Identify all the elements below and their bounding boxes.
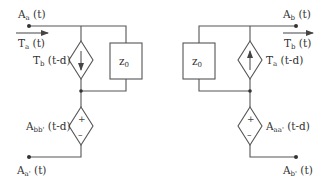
- right-minus-sign: –: [247, 130, 252, 140]
- right-current-label: Tb (t): [284, 37, 311, 51]
- right-current-source-label: Ta (t-d): [266, 54, 303, 68]
- left-plus-sign: +: [78, 114, 86, 124]
- left-port: Aa (t) Ta (t) Tb (t-d) z0 + – Abb' (t-d)…: [16, 8, 142, 178]
- left-bottom-wire: [29, 145, 81, 157]
- left-current-label: Ta (t): [18, 37, 45, 51]
- circuit-diagram: Aa (t) Ta (t) Tb (t-d) z0 + – Abb' (t-d)…: [0, 0, 331, 183]
- right-bottom-terminal: [294, 155, 298, 159]
- right-top-terminal: [294, 24, 298, 28]
- right-plus-sign: +: [247, 114, 255, 124]
- left-junction-wire: [81, 79, 126, 91]
- right-port: Ab (t) Tb (t) z0 Ta (t-d) + – Aaa' (t-d)…: [183, 8, 313, 178]
- left-top-terminal: [27, 24, 31, 28]
- right-voltage-source-label: Aaa' (t-d): [265, 120, 310, 134]
- right-junction-dot: [248, 89, 252, 93]
- left-bottom-node-label: Aa' (t): [16, 164, 46, 178]
- left-junction-dot: [79, 89, 83, 93]
- left-minus-sign: –: [78, 130, 83, 140]
- left-bottom-terminal: [27, 155, 31, 159]
- left-voltage-source-label: Abb' (t-d): [25, 120, 71, 134]
- right-top-wire: [199, 26, 296, 43]
- right-junction-wire: [199, 79, 250, 91]
- right-top-node-label: Ab (t): [282, 8, 311, 22]
- right-bottom-wire: [250, 145, 296, 157]
- left-top-node-label: Aa (t): [17, 8, 46, 22]
- right-bottom-node-label: Ab' (t): [282, 164, 313, 178]
- left-current-source-label: Tb (t-d): [33, 54, 71, 68]
